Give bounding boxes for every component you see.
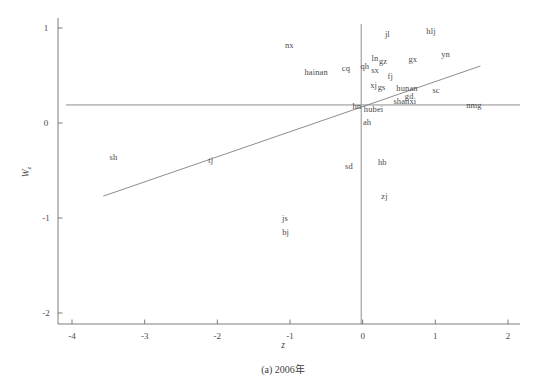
point-label-gs: gs <box>378 83 386 92</box>
x-axis-title: z <box>281 340 285 350</box>
point-label-hainan: hainan <box>305 67 328 76</box>
point-label-tj: tj <box>208 156 213 165</box>
y-axis-title-main: W <box>21 169 31 177</box>
y-axis-title: Wz <box>21 167 33 178</box>
y-tick-label: 0 <box>44 119 49 128</box>
point-label-js: js <box>282 214 288 223</box>
point-label-yn: yn <box>441 49 450 58</box>
y-tick-label: -2 <box>42 309 50 318</box>
point-label-zj: zj <box>381 192 387 201</box>
regression-line <box>103 66 480 196</box>
x-tick-label: -1 <box>286 332 294 341</box>
axes-group <box>58 18 520 324</box>
point-label-ah: ah <box>363 118 371 127</box>
point-label-bj: bj <box>282 228 289 237</box>
point-label-ln: ln <box>372 54 379 63</box>
x-tick-label: 2 <box>506 332 511 341</box>
point-label-gz: gz <box>379 57 387 66</box>
point-label-fj: fj <box>388 71 393 80</box>
x-tick-label: -4 <box>68 332 76 341</box>
y-tick-label: -1 <box>42 214 50 223</box>
point-label-hlj: hlj <box>426 27 435 36</box>
point-label-sh: sh <box>110 153 118 162</box>
point-label-cq: cq <box>342 64 350 73</box>
point-label-nx: nx <box>285 41 294 50</box>
point-label-qh: qh <box>360 62 369 71</box>
point-label-jl: jl <box>385 29 390 38</box>
figure-caption: (a) 2006年 <box>261 361 305 376</box>
point-label-sd: sd <box>345 162 353 171</box>
y-axis-title-subscript: z <box>25 167 33 170</box>
moran-scatter-figure: nxjlhljhainancqqhlngzsxfjgxynxjgshunansc… <box>0 0 537 388</box>
point-label-sx: sx <box>371 66 379 75</box>
x-tick-label: 1 <box>433 332 438 341</box>
x-tick-label: -3 <box>141 332 149 341</box>
x-tick-label: 0 <box>360 332 365 341</box>
point-label-shanxi: shanxi <box>393 97 416 106</box>
plot-canvas <box>0 0 537 388</box>
point-label-hubei: hubei <box>364 105 383 114</box>
point-label-hn: hn <box>352 102 361 111</box>
point-label-hb: hb <box>378 158 387 167</box>
point-label-gx: gx <box>408 55 417 64</box>
point-label-sc: sc <box>432 86 439 95</box>
y-tick-label: 1 <box>44 24 49 33</box>
reference-lines-group <box>66 24 520 324</box>
point-label-xj: xj <box>370 81 377 90</box>
x-tick-label: -2 <box>214 332 222 341</box>
tick-marks-group <box>58 28 508 324</box>
point-label-nmg: nmg <box>466 101 481 110</box>
